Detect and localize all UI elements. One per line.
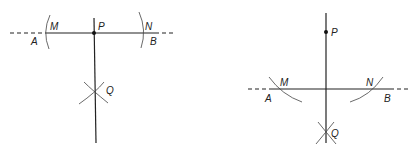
left-label-m: M <box>50 21 59 32</box>
right-figure: P M N A B Q <box>248 13 410 144</box>
left-label-a: A <box>30 36 38 47</box>
right-label-p: P <box>331 27 338 38</box>
geometry-construction-diagram: M P N A B Q P M N A B Q <box>0 0 420 152</box>
right-label-a: A <box>264 93 272 104</box>
left-arc-q-1 <box>84 82 108 103</box>
left-arc-q-2 <box>79 82 104 104</box>
left-point-p <box>92 31 96 35</box>
right-point-p <box>324 30 328 34</box>
right-label-n: N <box>366 77 374 88</box>
left-arc-n <box>139 12 144 48</box>
right-label-b: B <box>384 93 391 104</box>
left-figure: M P N A B Q <box>10 12 175 143</box>
right-label-q: Q <box>331 128 339 139</box>
left-label-n: N <box>145 21 153 32</box>
left-perpendicular-line <box>94 18 96 143</box>
left-label-p: P <box>98 21 105 32</box>
right-label-m: M <box>280 77 289 88</box>
left-label-q: Q <box>106 85 114 96</box>
left-label-b: B <box>150 36 157 47</box>
